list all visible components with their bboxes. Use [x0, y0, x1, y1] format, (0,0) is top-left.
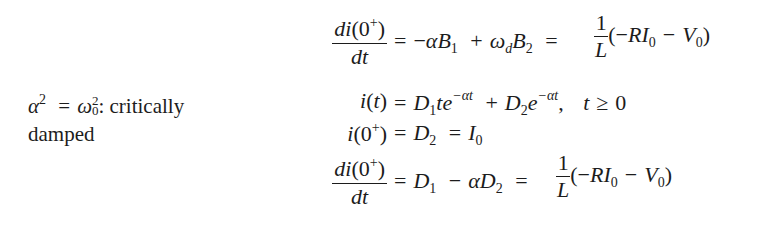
equals-sign: =: [394, 168, 406, 193]
plus: +: [470, 28, 482, 53]
B: B: [437, 28, 450, 53]
D: D: [413, 90, 429, 115]
I: I: [641, 22, 648, 47]
sub-1: 1: [429, 181, 436, 196]
critically-damped-label: α2 =ω20: critically damped: [28, 86, 184, 148]
alpha: α: [468, 168, 480, 193]
eq1-lhs: di(0+) dt: [282, 10, 387, 70]
paren: ): [703, 22, 710, 47]
eq1-numerator: di(0+): [332, 10, 387, 44]
D: D: [413, 120, 429, 145]
equals-sign: =: [394, 28, 406, 53]
V: V: [682, 22, 695, 47]
condition-text-damped: damped: [28, 122, 94, 146]
eq1-paren-expr: (−RI0−V0): [608, 22, 710, 47]
equals-sign: =: [394, 120, 406, 145]
D: D: [505, 90, 521, 115]
zero: 0: [615, 90, 626, 115]
paren: ): [380, 121, 387, 146]
eq2-lhs: i(t): [282, 88, 387, 114]
d: d: [351, 184, 362, 209]
eq3-lhs: i(0+): [282, 120, 387, 147]
equals-sign: =: [58, 94, 70, 118]
eq1-rhs: =−αB1 +ωdB2 =: [387, 28, 565, 57]
d: d: [351, 44, 362, 69]
eq1-denominator: dt: [332, 44, 387, 70]
d: d: [334, 156, 345, 181]
paren: ): [380, 88, 387, 113]
paren: (: [366, 88, 373, 113]
eq4-rhs-fraction: 1L(−RI0−V0): [556, 150, 672, 203]
minus: −: [449, 168, 461, 193]
paren: ): [665, 162, 672, 187]
e: e: [528, 90, 538, 115]
exponent: −αt: [452, 88, 473, 103]
eq4-numerator: di(0+): [332, 150, 387, 184]
alpha-symbol: α: [28, 94, 39, 118]
paren: (: [351, 16, 358, 41]
eq4-rhs: =D1 −αD2 =: [387, 168, 535, 197]
t: t: [583, 90, 589, 115]
zero: 0: [359, 16, 370, 41]
eq4-lhs: di(0+) dt: [282, 150, 387, 210]
paren: ): [378, 156, 385, 181]
t: t: [362, 184, 368, 209]
omega-symbol: ω: [77, 94, 92, 118]
zero: 0: [359, 156, 370, 181]
condition-expression: α2 =ω20: critically: [28, 94, 184, 118]
D: D: [480, 168, 496, 193]
R: R: [628, 22, 641, 47]
sub-2: 2: [496, 181, 503, 196]
eq4-denominator: dt: [332, 184, 387, 210]
exponent: −αt: [537, 88, 558, 103]
minus: −: [625, 162, 637, 187]
equals-sign: =: [545, 28, 557, 53]
d: d: [334, 16, 345, 41]
equals-sign: =: [394, 90, 406, 115]
V: V: [644, 162, 657, 187]
sub-0: 0: [611, 175, 618, 190]
sub-2: 2: [526, 41, 533, 56]
sub-0: 0: [658, 175, 665, 190]
plus-sup: +: [370, 155, 378, 170]
geq: ≥: [596, 90, 608, 115]
sub-0: 0: [476, 133, 483, 148]
eq4-paren-expr: (−RI0−V0): [570, 162, 672, 187]
sub-0: 0: [696, 35, 703, 50]
alpha: α: [426, 28, 438, 53]
eq1-rhs-fraction: 1L(−RI0−V0): [594, 10, 710, 63]
I: I: [603, 162, 610, 187]
paren: (: [570, 162, 577, 187]
paren: (: [353, 121, 360, 146]
B: B: [512, 28, 525, 53]
sub-2: 2: [521, 103, 528, 118]
t: t: [362, 44, 368, 69]
equals-sign: =: [515, 168, 527, 193]
eq3-rhs: =D2 =I0: [387, 120, 483, 149]
one-over-L: 1L: [556, 150, 570, 203]
plus: +: [485, 90, 497, 115]
R: R: [590, 162, 603, 187]
I: I: [468, 120, 475, 145]
numerator-1: 1: [556, 150, 570, 177]
eq2-rhs: =D1te−αt +D2e−αt, t≥0: [387, 88, 626, 119]
paren: ): [378, 16, 385, 41]
paren: (: [608, 22, 615, 47]
eq1-derivative-fraction: di(0+) dt: [332, 10, 387, 70]
comma: ,: [558, 90, 564, 115]
e: e: [442, 90, 452, 115]
minus: −: [616, 22, 628, 47]
minus: −: [413, 28, 425, 53]
D: D: [413, 168, 429, 193]
condition-text: : critically: [98, 94, 184, 118]
sub-0: 0: [649, 35, 656, 50]
numerator-1: 1: [594, 10, 608, 37]
minus: −: [663, 22, 675, 47]
plus-sup: +: [372, 120, 380, 135]
paren: (: [351, 156, 358, 181]
omega: ω: [490, 28, 506, 53]
sub-2: 2: [429, 133, 436, 148]
sub-1: 1: [451, 41, 458, 56]
exponent: 2: [39, 92, 46, 107]
plus-sup: +: [370, 15, 378, 30]
